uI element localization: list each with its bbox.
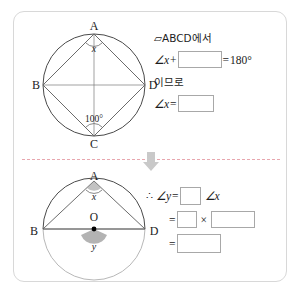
beq3-equals: = (168, 238, 177, 250)
answer-blank-angle-x[interactable] (178, 95, 214, 112)
beq2-times: × (200, 214, 209, 226)
vertex-label-a: A (90, 19, 99, 33)
beq1-equals: = (171, 190, 180, 202)
answer-blank-result[interactable] (177, 234, 221, 253)
top-work-area: ▱ABCD에서 ∠x + = 180° 이므로 ∠x = (154, 30, 286, 118)
bottom-section: A B O D x y ∴ ∠y = ∠x = × (14, 167, 288, 283)
inscribed-angle-figure: A B O D x y (28, 173, 160, 285)
bottom-equation-1: ∴ ∠y = ∠x (146, 187, 288, 205)
answer-blank-supplement[interactable] (178, 51, 222, 68)
eq1-equals: = (222, 54, 231, 66)
eq1-lhs: ∠x (154, 53, 169, 67)
angle-c-label: 100° (85, 114, 103, 124)
beq1-tail: ∠x (205, 189, 220, 203)
beq2-equals: = (168, 214, 177, 226)
cyclic-quadrilateral-figure: A B C D x 100° (28, 18, 160, 148)
top-statement-line: ▱ABCD에서 (154, 30, 286, 45)
angle-y-label: y (91, 241, 97, 252)
eq1-rhs: 180° (230, 54, 252, 66)
center-label-o: O (90, 211, 98, 223)
bottom-equation-2: = × (146, 211, 288, 228)
top-equation-1: ∠x + = 180° (154, 51, 286, 68)
vertex-label-a-bottom: A (90, 169, 99, 183)
answer-blank-factor-2[interactable] (211, 211, 255, 228)
quad-statement: ▱ABCD에서 (154, 30, 212, 45)
segment-ad (94, 181, 145, 229)
eq2-lhs: ∠x (154, 97, 169, 111)
top-connector-line: 이므로 (154, 74, 286, 89)
top-section: A B C D x 100° ▱ABCD에서 ∠x + = 180° 이므로 (14, 12, 288, 154)
bottom-equation-3: = (146, 234, 288, 253)
bottom-work-area: ∴ ∠y = ∠x = × = (146, 187, 288, 259)
top-equation-2: ∠x = (154, 95, 286, 112)
answer-blank-coefficient[interactable] (180, 187, 201, 205)
therefore-symbol: ∴ (146, 190, 153, 203)
segment-ab (43, 181, 94, 229)
angle-x-label-bottom: x (91, 191, 97, 202)
eq1-plus: + (169, 54, 178, 66)
inscribed-angle-svg: A B O D x y (28, 173, 160, 285)
vertex-label-b-bottom: B (30, 224, 38, 238)
answer-blank-factor-1[interactable] (177, 211, 197, 228)
beq1-lhs: ∠y (156, 189, 171, 203)
center-point-o (92, 227, 97, 232)
vertex-label-b: B (32, 78, 40, 92)
worksheet-card: A B C D x 100° ▱ABCD에서 ∠x + = 180° 이므로 (13, 11, 287, 282)
connector-text: 이므로 (154, 74, 184, 89)
vertex-label-c: C (90, 137, 98, 151)
eq2-equals: = (169, 98, 178, 110)
angle-x-label: x (91, 43, 97, 54)
cyclic-quadrilateral-svg: A B C D x 100° (28, 18, 160, 148)
